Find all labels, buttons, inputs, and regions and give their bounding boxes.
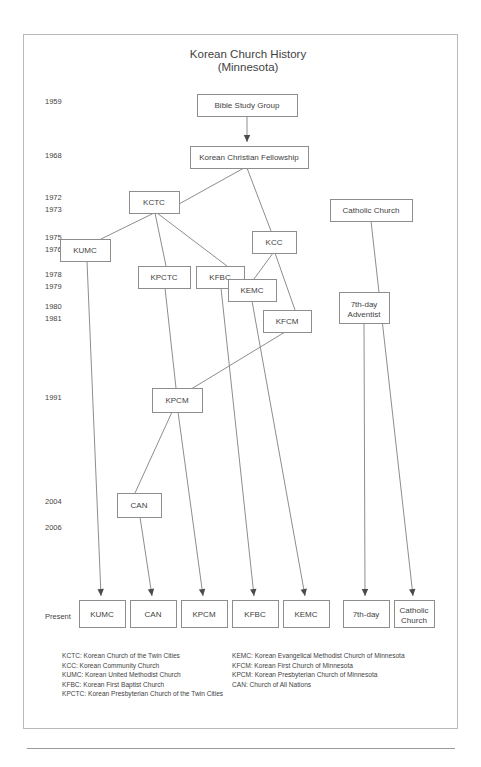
node-b_kumc[interactable]: KUMC bbox=[80, 601, 126, 628]
legend-left-column: KCTC: Korean Church of the Twin CitiesKC… bbox=[62, 652, 224, 698]
timeline-year-1979: 1979 bbox=[45, 282, 62, 291]
node-label-kemc: KEMC bbox=[240, 286, 263, 295]
arrowhead-icon bbox=[199, 589, 205, 596]
timeline-year-1968: 1968 bbox=[45, 151, 62, 160]
node-label-adv-line1: 7th-day bbox=[351, 300, 378, 309]
legend-entry: KEMC: Korean Evangelical Methodist Churc… bbox=[232, 652, 405, 660]
legend-entry: KFCM: Korean First Church of Minnesota bbox=[232, 662, 353, 669]
page-title-line1: Korean Church History bbox=[190, 48, 307, 60]
timeline-year-1972: 1972 bbox=[45, 193, 62, 202]
node-kcf[interactable]: Korean Christian Fellowship bbox=[191, 147, 309, 169]
arrowhead-icon bbox=[409, 589, 415, 596]
node-kfcm[interactable]: KFCM bbox=[264, 311, 312, 333]
node-b_cath[interactable]: CatholicChurch bbox=[395, 601, 435, 628]
node-kumc[interactable]: KUMC bbox=[61, 240, 111, 262]
node-layer: Bible Study GroupKorean Christian Fellow… bbox=[61, 95, 413, 518]
node-label-kumc: KUMC bbox=[73, 246, 97, 255]
node-label-b_cath-line2: Church bbox=[401, 616, 427, 625]
node-label-kpcm: KPCM bbox=[165, 396, 188, 405]
node-label-kctc: KCTC bbox=[143, 198, 165, 207]
connector-kemc-to-b_kemc bbox=[252, 301, 305, 596]
node-adv[interactable]: 7th-dayAdventist bbox=[340, 293, 390, 324]
connector-kctc-to-kpctc bbox=[155, 213, 166, 266]
node-label-adv-line2: Adventist bbox=[348, 310, 382, 319]
legend-entry: KUMC: Korean United Methodist Church bbox=[62, 671, 181, 678]
timeline-year-1976: 1976 bbox=[45, 245, 62, 254]
node-kpcm[interactable]: KPCM bbox=[153, 389, 203, 413]
arrowhead-icon bbox=[250, 589, 256, 596]
node-b_kemc[interactable]: KEMC bbox=[284, 601, 330, 628]
arrowhead-icon bbox=[98, 589, 104, 596]
node-label-can: CAN bbox=[131, 501, 148, 510]
node-label-b_cath-line1: Catholic bbox=[400, 606, 429, 615]
connector-kcf-to-kctc bbox=[179, 168, 244, 204]
connector-kpcm-to-b_kpcm bbox=[178, 412, 203, 596]
legend-entry: KPCTC: Korean Presbyterian Church of the… bbox=[62, 690, 224, 698]
page-title-line2: (Minnesota) bbox=[218, 61, 279, 73]
node-label-b_kfbc: KFBC bbox=[244, 610, 266, 619]
arrowhead-icon bbox=[148, 589, 154, 596]
timeline-year-1973: 1973 bbox=[45, 205, 62, 214]
node-label-kfbc: KFBC bbox=[209, 273, 231, 282]
timeline-label-present: Present bbox=[45, 612, 72, 621]
timeline-year-1959: 1959 bbox=[45, 97, 62, 106]
arrowhead-icon bbox=[362, 589, 368, 596]
present-row-layer: KUMCCANKPCMKFBCKEMC7th-dayCatholicChurch bbox=[80, 601, 435, 628]
korean-church-history-diagram: Korean Church History (Minnesota) 195919… bbox=[0, 0, 481, 767]
node-label-kcf: Korean Christian Fellowship bbox=[199, 153, 299, 162]
node-label-b_adv: 7th-day bbox=[353, 610, 380, 619]
node-label-bsg: Bible Study Group bbox=[215, 101, 280, 110]
node-label-kpctc: KPCTC bbox=[150, 273, 177, 282]
node-kctc[interactable]: KCTC bbox=[130, 192, 180, 214]
timeline-year-1975: 1975 bbox=[45, 233, 62, 242]
node-b_kpcm[interactable]: KPCM bbox=[182, 601, 228, 628]
diagram-page: Korean Church History (Minnesota) 195919… bbox=[0, 0, 481, 767]
legend-entry: KCTC: Korean Church of the Twin Cities bbox=[62, 652, 181, 659]
connector-adv-to-b_adv bbox=[364, 323, 365, 596]
connector-kpcm-to-can bbox=[135, 412, 172, 493]
legend-entry: KFBC: Korean First Baptist Church bbox=[62, 681, 165, 689]
connector-kctc-to-kumc bbox=[101, 213, 154, 239]
connector-cath-to-b_cath bbox=[371, 221, 413, 596]
node-label-cath: Catholic Church bbox=[343, 206, 400, 215]
arrowhead-icon bbox=[244, 135, 250, 142]
timeline-year-1991: 1991 bbox=[45, 393, 62, 402]
node-label-b_can: CAN bbox=[145, 610, 162, 619]
node-b_kfbc[interactable]: KFBC bbox=[233, 601, 279, 628]
timeline-year-2004: 2004 bbox=[45, 497, 62, 506]
connector-kctc-to-kfbc bbox=[157, 213, 227, 266]
connector-kcc-to-kemc bbox=[254, 253, 273, 279]
node-label-b_kpcm: KPCM bbox=[192, 610, 215, 619]
legend-entry: KCC: Korean Community Church bbox=[62, 662, 159, 670]
node-label-b_kumc: KUMC bbox=[90, 610, 114, 619]
connector-layer bbox=[87, 116, 415, 596]
legend-entry: CAN: Church of All Nations bbox=[232, 681, 312, 688]
node-b_can[interactable]: CAN bbox=[131, 601, 177, 628]
node-kpctc[interactable]: KPCTC bbox=[139, 267, 191, 289]
node-label-kcc: KCC bbox=[266, 238, 283, 247]
node-kcc[interactable]: KCC bbox=[253, 232, 297, 254]
node-can[interactable]: CAN bbox=[118, 494, 162, 518]
connector-kfbc-to-b_kfbc bbox=[221, 288, 254, 596]
node-label-b_kemc: KEMC bbox=[294, 610, 317, 619]
legend-entry: KPCM: Korean Presbyterian Church of Minn… bbox=[232, 671, 378, 679]
node-b_adv[interactable]: 7th-day bbox=[344, 601, 390, 628]
timeline-year-2006: 2006 bbox=[45, 523, 62, 532]
timeline-year-1981: 1981 bbox=[45, 314, 62, 323]
timeline-year-1980: 1980 bbox=[45, 302, 62, 311]
connector-kcf-to-kcc bbox=[247, 168, 271, 231]
node-cath[interactable]: Catholic Church bbox=[331, 200, 413, 222]
legend-right-column: KEMC: Korean Evangelical Methodist Churc… bbox=[232, 652, 405, 688]
connector-kumc-to-b_kumc bbox=[87, 261, 101, 596]
connector-kpctc-to-kpcm bbox=[165, 288, 176, 388]
node-label-kfcm: KFCM bbox=[276, 317, 299, 326]
connector-can-to-b_can bbox=[140, 517, 152, 596]
timeline-year-labels: 1959196819721973197519761978197919801981… bbox=[45, 97, 62, 532]
connector-kfcm-to-kpcm bbox=[183, 332, 285, 394]
connector-kcc-to-kfcm bbox=[275, 253, 295, 310]
arrowhead-icon bbox=[301, 589, 307, 596]
node-bsg[interactable]: Bible Study Group bbox=[198, 95, 298, 117]
node-kemc[interactable]: KEMC bbox=[229, 280, 277, 302]
timeline-year-1978: 1978 bbox=[45, 270, 62, 279]
